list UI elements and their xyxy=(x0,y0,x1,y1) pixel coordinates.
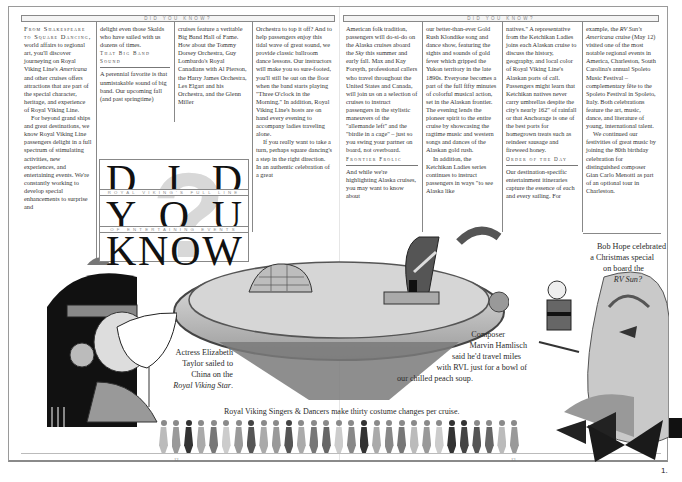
dancer-figure xyxy=(222,420,231,453)
left-col-2: delight even those Skalds who have saile… xyxy=(97,22,173,106)
dancer-figure xyxy=(259,420,268,453)
bottom-rule xyxy=(21,453,661,454)
dancer-figure xyxy=(172,420,181,453)
right-col-1: American folk tradition, passengers will… xyxy=(343,22,421,203)
dancer-figure xyxy=(272,420,281,453)
dancer-figure xyxy=(385,420,394,453)
dancer-figure xyxy=(447,420,456,453)
dancer-figure xyxy=(334,420,343,453)
caption-elizabeth-taylor: Actress Elizabeth Taylor sailed to China… xyxy=(151,347,233,391)
lead-smallcaps: From Shakespeare to Square Dancing, xyxy=(24,25,91,40)
subhead-order-of-day: Order of the Day xyxy=(506,155,578,163)
subhead-rule xyxy=(506,165,578,166)
dancer-figure xyxy=(234,420,243,453)
left-col-1: From Shakespeare to Square Dancing, worl… xyxy=(21,22,95,214)
page-number-right: 13 xyxy=(511,457,516,462)
dancer-figure xyxy=(497,420,506,453)
dancer-figure xyxy=(410,420,419,453)
dancer-figure xyxy=(197,420,206,453)
dancer-figure xyxy=(485,420,494,453)
dancer-figure xyxy=(510,420,519,453)
dancer-figure xyxy=(309,420,318,453)
title-row-know: K N O W xyxy=(100,231,248,271)
corner-number: 1. xyxy=(661,466,668,475)
column-bottom-rule xyxy=(583,233,661,234)
right-col-3: natives." A representative from the Ketc… xyxy=(503,22,581,203)
caption-marvin-hamlisch: Composer Marvin Hamlisch said he'd trave… xyxy=(397,329,527,384)
dancer-figure xyxy=(422,420,431,453)
left-col-4: Orchestra to top it off? And to help pas… xyxy=(253,22,335,182)
subhead-frontier-frolic: Frontier Frolic xyxy=(346,155,418,163)
caption-bob-hope: Bob Hope celebrated a Christmas special … xyxy=(571,241,666,285)
dancer-figure xyxy=(159,420,168,453)
magazine-spread: DID YOU KNOW? DID YOU KNOW? From Shakesp… xyxy=(8,6,668,462)
left-col-3: cruises feature a veritable Big Band Hal… xyxy=(175,22,251,109)
corner-marker xyxy=(669,418,682,438)
page-number-left: 12 xyxy=(174,457,179,462)
dancer-figure xyxy=(209,420,218,453)
dancer-figure xyxy=(347,420,356,453)
subhead-big-band: That Big Band Sound xyxy=(100,49,170,65)
dancer-figure xyxy=(184,420,193,453)
dancer-figure xyxy=(397,420,406,453)
bowtie-graphic xyxy=(585,420,665,465)
dancer-figure xyxy=(435,420,444,453)
subhead-rule xyxy=(346,165,418,166)
dancer-figures-row xyxy=(159,415,519,453)
dancer-figure xyxy=(284,420,293,453)
header-band-right: DID YOU KNOW? xyxy=(343,15,659,22)
right-col-4: example, the RV Sun's Americana cruise (… xyxy=(583,22,661,198)
dancer-figure xyxy=(247,420,256,453)
dancer-figure xyxy=(472,420,481,453)
did-you-know-title: ? D I D ROYAL VIKING'S FULL LINE Y O U O… xyxy=(99,159,249,262)
dancer-figure xyxy=(360,420,369,453)
subhead-rule xyxy=(100,67,170,68)
dancer-figure xyxy=(322,420,331,453)
right-col-2: our better-than-ever Gold Rush Klondike … xyxy=(423,22,501,198)
dancer-figure xyxy=(372,420,381,453)
dancer-figure xyxy=(297,420,306,453)
header-band-left: DID YOU KNOW? xyxy=(21,15,335,22)
dancer-figure xyxy=(460,420,469,453)
